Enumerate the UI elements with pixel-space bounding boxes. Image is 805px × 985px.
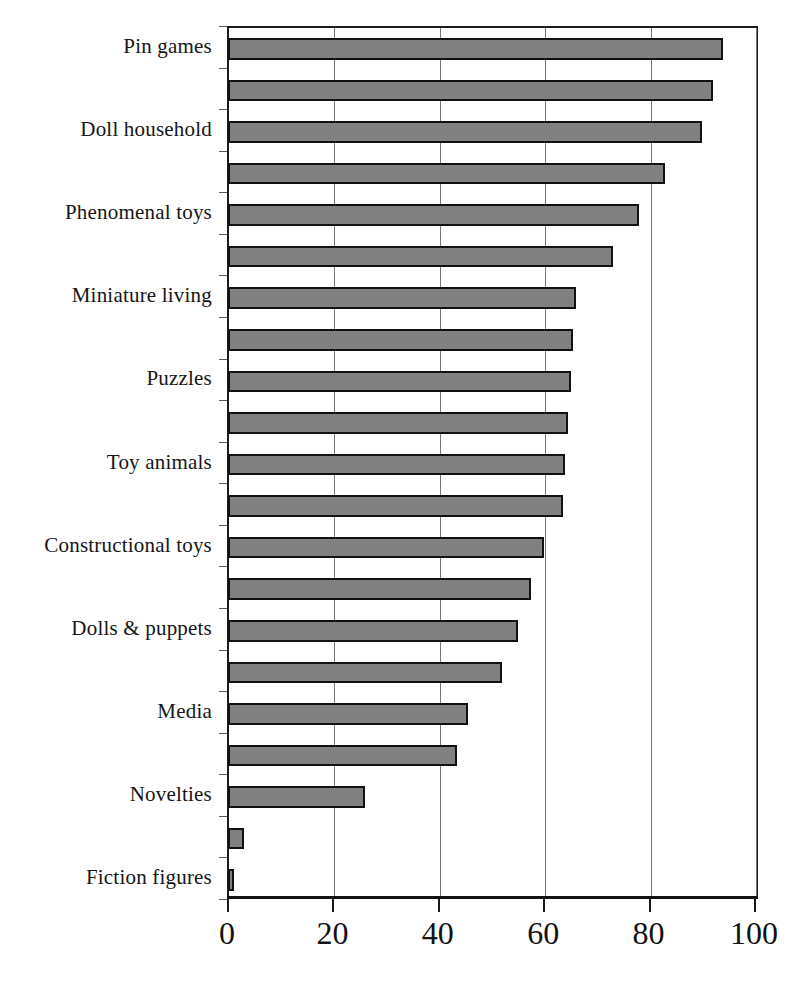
value-tick-100 [754, 899, 756, 912]
bar-row [229, 828, 756, 850]
category-tick [219, 109, 227, 110]
category-tick [219, 234, 227, 235]
bar-row [229, 786, 756, 808]
category-tick [219, 857, 227, 858]
category-tick [219, 442, 227, 443]
category-tick [219, 359, 227, 360]
category-label: Media [157, 700, 212, 722]
bars-layer [229, 28, 756, 896]
category-tick [219, 68, 227, 69]
category-label: Toy animals [107, 451, 212, 473]
category-tick [219, 733, 227, 734]
category-label: Doll household [80, 118, 212, 140]
category-label: Dolls & puppets [71, 617, 212, 639]
value-axis-labels: 020406080100 [0, 912, 805, 972]
bar-row [229, 745, 756, 767]
bar [228, 163, 665, 185]
bar-row [229, 121, 756, 143]
category-tick [219, 774, 227, 775]
bar [228, 578, 531, 600]
bar [228, 121, 702, 143]
category-tick [219, 400, 227, 401]
bar [228, 662, 502, 684]
category-tick [219, 608, 227, 609]
category-tick [219, 151, 227, 152]
value-tick-40 [438, 899, 440, 912]
bar-row [229, 412, 756, 434]
bar [228, 495, 563, 517]
category-tick [219, 525, 227, 526]
plot-area [227, 26, 758, 899]
bar-row [229, 703, 756, 725]
bar [228, 869, 234, 891]
bar [228, 828, 244, 850]
value-tick-80 [649, 899, 651, 912]
value-tick-20 [332, 899, 334, 912]
category-tick [219, 691, 227, 692]
category-tick [219, 650, 227, 651]
category-tick [219, 899, 227, 900]
value-axis-ticks [227, 899, 758, 913]
category-label: Miniature living [72, 284, 212, 306]
bar-row [229, 495, 756, 517]
value-tick-60 [543, 899, 545, 912]
bar-row [229, 329, 756, 351]
bar [228, 537, 544, 559]
bar [228, 287, 576, 309]
bar-row [229, 371, 756, 393]
bar-row [229, 163, 756, 185]
bar-row [229, 620, 756, 642]
value-tick-0 [227, 899, 229, 912]
bar-row [229, 287, 756, 309]
bar-row [229, 204, 756, 226]
category-label: Pin games [123, 35, 212, 57]
value-tick-label-60: 60 [527, 912, 559, 954]
bar [228, 412, 568, 434]
bar [228, 703, 468, 725]
bar [228, 786, 365, 808]
category-tick [219, 275, 227, 276]
category-tick [219, 317, 227, 318]
value-tick-label-0: 0 [219, 912, 235, 954]
category-label: Phenomenal toys [65, 201, 212, 223]
bar [228, 745, 457, 767]
bar-row [229, 38, 756, 60]
category-tick [219, 26, 227, 27]
bar [228, 80, 713, 102]
value-tick-label-20: 20 [316, 912, 348, 954]
bar [228, 246, 613, 268]
category-axis: Pin gamesDoll householdPhenomenal toysMi… [0, 0, 218, 985]
bar-row [229, 662, 756, 684]
bar-row [229, 246, 756, 268]
bar-row [229, 537, 756, 559]
category-label: Puzzles [146, 367, 212, 389]
category-tick [219, 566, 227, 567]
category-label: Novelties [130, 783, 212, 805]
bar-row [229, 80, 756, 102]
horizontal-bar-chart: Pin gamesDoll householdPhenomenal toysMi… [0, 0, 805, 985]
bar [228, 204, 639, 226]
category-label: Fiction figures [86, 866, 212, 888]
bar-row [229, 869, 756, 891]
bar [228, 454, 565, 476]
value-tick-label-100: 100 [730, 912, 778, 954]
bar [228, 620, 518, 642]
bar [228, 371, 571, 393]
category-tick [219, 483, 227, 484]
bar [228, 38, 723, 60]
value-tick-label-40: 40 [422, 912, 454, 954]
category-tick [219, 192, 227, 193]
bar-row [229, 578, 756, 600]
category-label: Constructional toys [44, 534, 212, 556]
gridline-100 [756, 28, 757, 896]
category-tick [219, 816, 227, 817]
value-tick-label-80: 80 [633, 912, 665, 954]
bar [228, 329, 573, 351]
bar-row [229, 454, 756, 476]
